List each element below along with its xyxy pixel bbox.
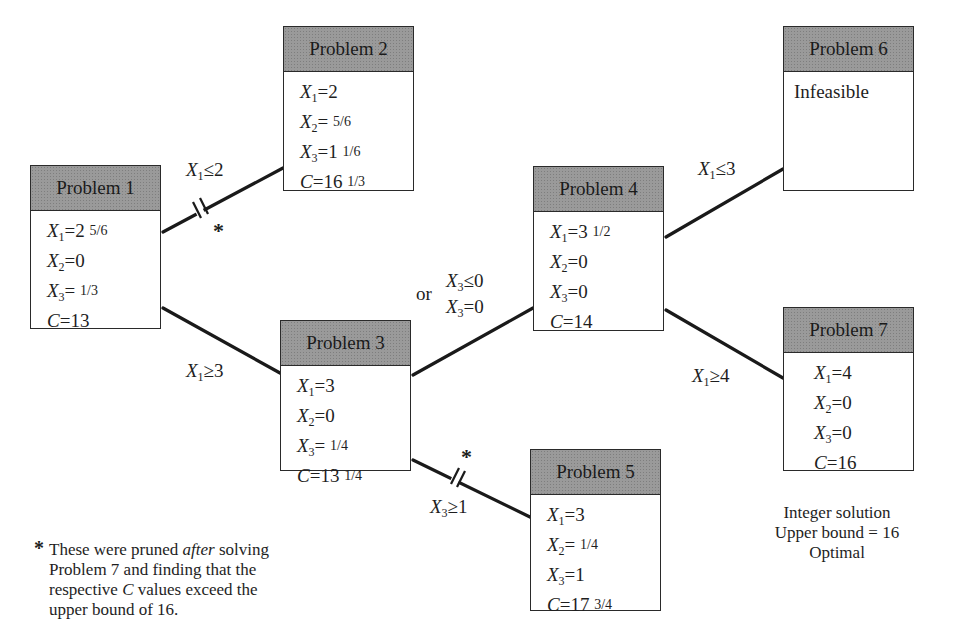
edge-label-or: or: [416, 283, 432, 305]
edge-label-p1-p2: X1≤2: [186, 159, 224, 184]
node-problem-5: Problem 5 X1=3 X2= 1/4 X3=1 C=17 3/4: [530, 449, 661, 611]
node-problem-2: Problem 2 X1=2 X2= 5/6 X3=1 1/6 C=16 1/3: [283, 26, 414, 191]
prune-cut-icon: [192, 198, 208, 223]
edge-label-p1-p3: X1≥3: [186, 360, 224, 385]
footnote: * These were pruned after solving Proble…: [49, 540, 269, 620]
node-problem-7: Problem 7 X1=4 X2=0 X3=0 C=16: [783, 307, 914, 471]
edge-label-p3-p5: X3≥1: [430, 496, 468, 521]
node-problem-4: Problem 4 X1=3 1/2 X2=0 X3=0 C=14: [533, 166, 664, 331]
node-problem-6: Problem 6 Infeasible: [783, 26, 914, 191]
node-problem-3: Problem 3 X1=3 X2=0 X3= 1/4 C=13 1/4: [280, 320, 411, 471]
prune-asterisk: *: [461, 444, 472, 470]
node-solution: X1=2 X2= 5/6 X3=1 1/6 C=16 1/3: [284, 72, 413, 193]
node-title: Problem 4: [534, 167, 663, 212]
node-solution: X1=3 X2= 1/4 X3=1 C=17 3/4: [531, 495, 660, 616]
node-solution: X1=2 5/6 X2=0 X3= 1/3 C=13: [31, 211, 160, 332]
edge-label-p4-p7: X1≥4: [692, 365, 730, 390]
summary-upper-bound: Upper bound = 16: [742, 523, 932, 543]
node-problem-1: Problem 1 X1=2 5/6 X2=0 X3= 1/3 C=13: [30, 165, 161, 329]
summary-optimal: Optimal: [742, 543, 932, 563]
node-title: Problem 5: [531, 450, 660, 495]
optimal-summary: Integer solution Upper bound = 16 Optima…: [742, 503, 932, 563]
summary-integer-solution: Integer solution: [742, 503, 932, 523]
node-title: Problem 1: [31, 166, 160, 211]
node-solution: X1=3 1/2 X2=0 X3=0 C=14: [534, 212, 663, 333]
node-title: Problem 6: [784, 27, 913, 72]
node-status: Infeasible: [784, 72, 913, 103]
node-solution: X1=3 X2=0 X3= 1/4 C=13 1/4: [281, 366, 410, 487]
node-title: Problem 3: [281, 321, 410, 366]
prune-asterisk: *: [213, 218, 224, 244]
infeasible-label: Infeasible: [794, 80, 913, 103]
edge-label-p3-p4-alt: X3=0: [446, 296, 484, 321]
node-title: Problem 7: [784, 308, 913, 353]
edge-label-p4-p6: X1≤3: [698, 158, 736, 183]
footnote-asterisk: *: [34, 538, 44, 558]
node-solution: X1=4 X2=0 X3=0 C=16: [784, 353, 913, 474]
edge-label-p3-p4: X3≤0: [446, 270, 484, 295]
node-title: Problem 2: [284, 27, 413, 72]
